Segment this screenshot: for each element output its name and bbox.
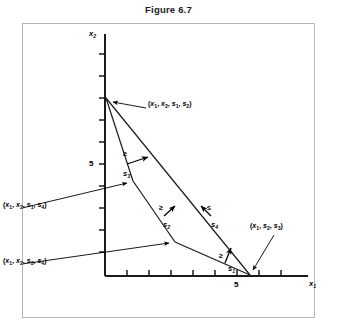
constraint-relation-s4: ≤: [207, 204, 211, 211]
constraint-slack-label-s4: s4: [211, 220, 218, 229]
y-axis-label: x2: [89, 29, 96, 38]
constraint-relation-s2: ≥: [159, 204, 163, 211]
callout-leader-top: [113, 102, 146, 108]
plot-canvas: [23, 24, 316, 319]
constraint-relation-s1: ≥: [219, 252, 223, 259]
x-axis-tick-label-5: 5: [234, 280, 238, 289]
constraint-slack-label-s2: s2: [163, 220, 170, 229]
vertex-label-x1-x2-s1-s4: (x1, x2, s1, s4): [3, 201, 47, 208]
vertex-label-x1-x2-s3-s4: (x1, x2, s3, s4): [3, 257, 47, 264]
figure-title: Figure 6.7: [0, 4, 337, 15]
constraint-arrow-s3: [127, 157, 148, 164]
constraint-slack-label-s3: s3: [123, 169, 130, 178]
feasible-region-boundary: [106, 98, 250, 275]
constraint-slack-label-s1: s1: [228, 264, 235, 273]
constraint-arrow-s2: [164, 206, 175, 216]
vertex-label-x1-s2-s3: (x1, s2, s3): [250, 222, 283, 229]
constraint-relation-s3: ≥: [123, 150, 127, 157]
y-axis-tick-label-5: 5: [89, 159, 93, 168]
figure-plot-frame: x2 x1 5 5 (x1, x2, s1, s2) (x1, x2, s1, …: [22, 23, 315, 318]
vertex-label-x1-x2-s1-s2: (x1, x2, s1, s2): [148, 100, 192, 107]
x-axis: [105, 270, 308, 276]
constraint-arrow-s1: [225, 248, 231, 263]
callout-leader-bottomright: [253, 235, 274, 270]
x-axis-label: x1: [309, 279, 316, 288]
y-axis: [99, 34, 105, 276]
